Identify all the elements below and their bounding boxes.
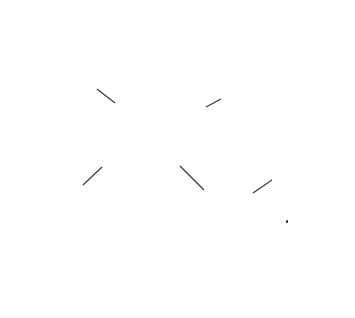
edge-central-fq1 bbox=[97, 89, 115, 103]
edge-central-fq3 bbox=[83, 167, 102, 185]
edge-pacific-a bbox=[253, 180, 272, 193]
edge-central-fq2 bbox=[206, 99, 221, 107]
concept-web-diagram bbox=[0, 0, 355, 318]
edge-central-pacific bbox=[180, 166, 204, 190]
